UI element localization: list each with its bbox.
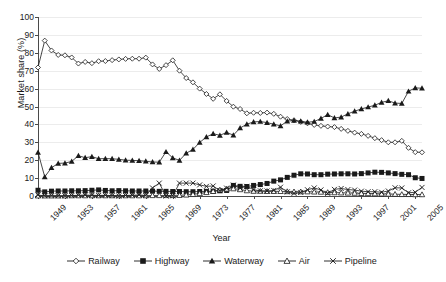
legend-item-air[interactable]: Air	[277, 256, 310, 266]
legend-item-highway[interactable]: Highway	[133, 256, 190, 266]
y-tick-label: 60	[25, 84, 34, 93]
x-axis-line	[38, 196, 422, 197]
legend-label: Railway	[88, 256, 120, 266]
y-tick-label: 10	[25, 174, 34, 183]
plot-area: 0102030405060708090100 19491953195719611…	[38, 17, 422, 196]
x-tick-label: 1949	[49, 203, 68, 222]
x-tick-label: 1953	[75, 203, 94, 222]
x-tick-label: 1997	[372, 203, 391, 222]
legend-marker-open-triangle-icon	[277, 256, 297, 266]
y-tick-label: 30	[25, 138, 34, 147]
x-axis-title: Year	[0, 233, 443, 243]
series-highway	[36, 170, 425, 195]
y-tick-label: 90	[25, 31, 34, 40]
legend-label: Waterway	[224, 256, 264, 266]
legend-marker-open-diamond-icon	[66, 256, 86, 266]
y-tick-label: 0	[29, 192, 34, 201]
x-tick-label: 2005	[426, 203, 445, 222]
chart-legend: RailwayHighwayWaterwayAirPipeline	[0, 256, 443, 266]
x-tick-label: 1957	[102, 203, 121, 222]
series-lines	[38, 17, 422, 196]
legend-label: Pipeline	[345, 256, 377, 266]
x-tick-label: 1965	[156, 203, 175, 222]
x-tick-label: 1981	[264, 203, 283, 222]
legend-marker-filled-square-icon	[133, 256, 153, 266]
x-tick-label: 1961	[129, 203, 148, 222]
legend-label: Highway	[155, 256, 190, 266]
x-tick-label: 1989	[318, 203, 337, 222]
legend-item-pipeline[interactable]: Pipeline	[323, 256, 377, 266]
y-tick-label: 40	[25, 120, 34, 129]
x-tick-label: 2001	[399, 203, 418, 222]
x-tick-label: 1993	[345, 203, 364, 222]
legend-item-railway[interactable]: Railway	[66, 256, 120, 266]
y-tick-label: 70	[25, 66, 34, 75]
legend-label: Air	[299, 256, 310, 266]
y-tick-label: 100	[20, 13, 34, 22]
y-tick-label: 50	[25, 102, 34, 111]
y-tick-label: 80	[25, 49, 34, 58]
x-tick-label: 1973	[210, 203, 229, 222]
x-tick-label: 1969	[183, 203, 202, 222]
y-tick-label: 20	[25, 156, 34, 165]
x-tick-label: 1977	[237, 203, 256, 222]
series-railway	[36, 38, 425, 155]
legend-item-waterway[interactable]: Waterway	[202, 256, 264, 266]
legend-marker-filled-triangle-icon	[202, 256, 222, 266]
series-waterway	[35, 85, 425, 179]
legend-marker-x-icon	[323, 256, 343, 266]
x-tick-label: 1985	[291, 203, 310, 222]
